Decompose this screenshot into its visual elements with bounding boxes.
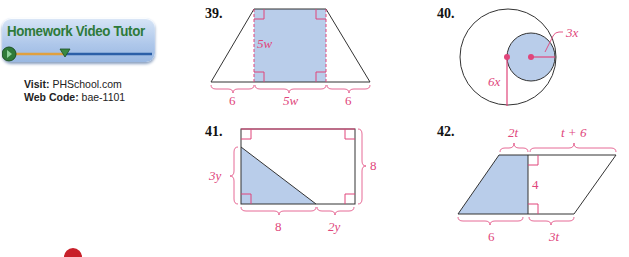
- label-41-triangle-height: 3y: [208, 168, 222, 183]
- figure-39: 5w 6 5w 6: [211, 9, 370, 108]
- label-41-remaining-base: 2y: [328, 219, 341, 234]
- label-41-rect-height: 8: [370, 158, 377, 173]
- label-42-bottom-left: 6: [488, 229, 495, 244]
- figure-40: 3x 6x: [460, 9, 579, 106]
- label-41-triangle-base: 8: [275, 219, 282, 234]
- label-39-left-base: 6: [229, 93, 236, 108]
- section-marker-icon: [64, 248, 82, 257]
- figures: 5w 6 5w 6 3x 6x 3y 8 8 2y: [0, 0, 629, 257]
- label-39-middle-base: 5w: [283, 93, 299, 108]
- label-40-large-radius: 6x: [488, 74, 501, 89]
- label-42-top-left: 2t: [508, 125, 519, 140]
- label-42-top-right: t + 6: [561, 125, 587, 140]
- label-39-height: 5w: [257, 36, 273, 51]
- label-39-right-base: 6: [345, 93, 352, 108]
- label-40-small-radius: 3x: [565, 25, 579, 40]
- label-42-height: 4: [532, 177, 539, 192]
- figure-42: 2t t + 6 4 6 3t: [458, 125, 616, 244]
- figure-41: 3y 8 8 2y: [208, 129, 377, 234]
- label-42-bottom-right: 3t: [548, 229, 560, 244]
